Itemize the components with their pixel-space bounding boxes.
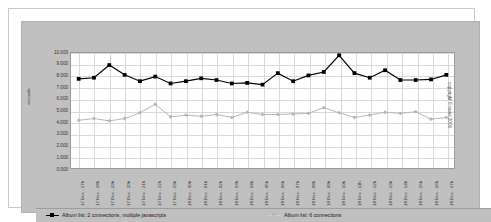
- data-point-marker: [291, 79, 295, 83]
- x-axis-tick-label: 18 Dec - 12h: [372, 181, 377, 206]
- data-point-marker: [337, 53, 341, 57]
- x-axis-tick-label: 17 Dec - 21h: [141, 181, 146, 206]
- x-axis-tick-label: 17 Dec - 19h: [110, 181, 115, 206]
- y-axis-tick-label: 1.000: [24, 155, 68, 160]
- x-axis-tick-label: 17 Dec - 17h: [80, 181, 85, 206]
- y-axis-tick-label: 5.000: [24, 108, 68, 113]
- legend-label-series-2: Album list: 6 connections: [284, 212, 341, 218]
- x-axis-tick-label: 17 Dec - 22h: [157, 181, 162, 206]
- series-line-1: [79, 55, 447, 84]
- x-axis-tick-label: 18 Dec - 08h: [311, 181, 316, 206]
- y-axis-tick-label: 2.000: [24, 143, 68, 148]
- x-axis-tick-labels: 17 Dec - 17h17 Dec - 18h17 Dec - 19h17 D…: [70, 170, 455, 210]
- copyright-text: copyright © ravel 2006: [447, 82, 452, 128]
- x-axis-tick-label: 18 Dec - 03h: [234, 181, 239, 206]
- data-point-marker: [291, 112, 295, 116]
- data-point-marker: [276, 113, 280, 117]
- y-axis-tick-labels: 10.0009.0008.0007.0006.0005.0004.0003.00…: [22, 52, 68, 169]
- data-point-marker: [92, 76, 96, 80]
- chart-legend: Album list: 2 connections, multiple java…: [36, 208, 491, 222]
- data-point-marker: [398, 78, 402, 82]
- y-axis-tick-label: 8.000: [24, 73, 68, 78]
- x-axis-tick-label: 18 Dec - 02h: [218, 181, 223, 206]
- x-axis-tick-label: 17 Dec - 23h: [172, 181, 177, 206]
- data-point-marker: [138, 111, 142, 115]
- data-point-marker: [153, 75, 157, 79]
- data-point-marker: [429, 78, 433, 82]
- chart-canvas: seconds 10.0009.0008.0007.0006.0005.0004…: [21, 21, 480, 213]
- data-point-marker: [322, 70, 326, 74]
- data-point-marker: [353, 71, 357, 75]
- data-point-marker: [383, 110, 387, 114]
- x-axis-tick-label: 18 Dec - 05h: [264, 181, 269, 206]
- data-point-marker: [245, 81, 249, 85]
- series-line-2: [79, 104, 447, 121]
- data-point-marker: [184, 113, 188, 117]
- data-point-marker: [123, 117, 127, 121]
- x-axis-tick-label: 18 Dec - 11h: [357, 181, 362, 206]
- x-axis-tick-label: 18 Dec - 01h: [203, 181, 208, 206]
- data-point-marker: [307, 74, 311, 78]
- data-point-marker: [230, 82, 234, 86]
- data-point-marker: [398, 111, 402, 115]
- x-axis-tick-label: 18 Dec - 09h: [326, 181, 331, 206]
- legend-label-series-1: Album list: 2 connections, multiple java…: [62, 212, 166, 218]
- data-point-marker: [245, 110, 249, 114]
- data-point-marker: [138, 79, 142, 83]
- x-axis-tick-label: 18 Dec - 14h: [403, 181, 408, 206]
- data-point-marker: [261, 113, 265, 117]
- data-point-marker: [215, 113, 219, 117]
- y-axis-tick-label: 4.000: [24, 120, 68, 125]
- x-axis-tick-label: 18 Dec - 04h: [249, 181, 254, 206]
- plot-svg: [71, 53, 454, 168]
- data-point-marker: [215, 78, 219, 82]
- y-axis-tick-label: 7.000: [24, 85, 68, 90]
- data-point-marker: [414, 78, 418, 82]
- data-point-marker: [184, 79, 188, 83]
- data-point-marker: [322, 106, 326, 110]
- legend-item-series-1[interactable]: Album list: 2 connections, multiple java…: [46, 212, 166, 218]
- data-point-marker: [414, 110, 418, 114]
- legend-item-series-2[interactable]: Album list: 6 connections: [268, 212, 341, 218]
- legend-diamond-marker-icon: [268, 212, 281, 218]
- y-axis-tick-label: 6.000: [24, 96, 68, 101]
- data-point-marker: [429, 117, 433, 121]
- data-point-marker: [199, 76, 203, 80]
- x-axis-tick-label: 17 Dec - 20h: [126, 181, 131, 206]
- x-axis-tick-label: 18 Dec - 17h: [449, 181, 454, 206]
- x-axis-tick-label: 18 Dec - 06h: [280, 181, 285, 206]
- y-axis-tick-label: 9.000: [24, 61, 68, 66]
- x-axis-tick-label: 18 Dec - 00h: [187, 181, 192, 206]
- plot-area: [70, 52, 455, 169]
- data-point-marker: [123, 73, 127, 77]
- data-point-marker: [199, 114, 203, 118]
- data-point-marker: [306, 111, 310, 115]
- data-point-marker: [337, 111, 341, 115]
- data-point-marker: [169, 82, 173, 86]
- data-point-marker: [92, 117, 96, 121]
- x-axis-tick-label: 18 Dec - 15h: [418, 181, 423, 206]
- outer-frame: seconds 10.0009.0008.0007.0006.0005.0004…: [8, 8, 475, 208]
- data-point-marker: [77, 77, 81, 81]
- x-axis-tick-label: 18 Dec - 13h: [388, 181, 393, 206]
- data-point-marker: [261, 83, 265, 87]
- data-point-marker: [368, 76, 372, 80]
- legend-square-marker-icon: [46, 212, 59, 218]
- y-axis-tick-label: 3.000: [24, 131, 68, 136]
- x-axis-tick-label: 18 Dec - 10h: [341, 181, 346, 206]
- data-point-marker: [77, 118, 81, 122]
- data-point-marker: [107, 119, 111, 123]
- data-point-marker: [276, 71, 280, 75]
- data-point-marker: [107, 63, 111, 67]
- x-axis-tick-label: 18 Dec - 16h: [434, 181, 439, 206]
- data-point-marker: [230, 115, 234, 119]
- data-point-marker: [383, 68, 387, 72]
- x-axis-tick-label: 17 Dec - 18h: [95, 181, 100, 206]
- data-point-marker: [368, 113, 372, 117]
- x-axis-tick-label: 18 Dec - 07h: [295, 181, 300, 206]
- y-axis-tick-label: 10.000: [24, 50, 68, 55]
- data-point-marker: [444, 73, 448, 77]
- y-axis-tick-label: 0.000: [24, 167, 68, 172]
- data-point-marker: [352, 115, 356, 119]
